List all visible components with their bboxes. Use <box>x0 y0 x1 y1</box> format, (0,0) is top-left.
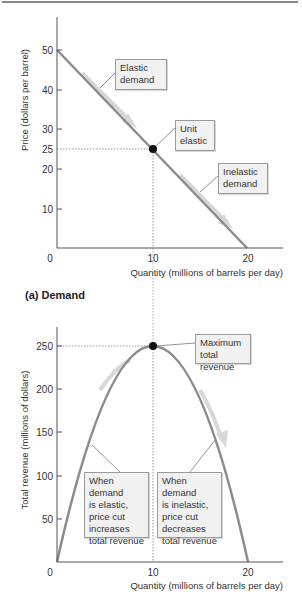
svg-text:150: 150 <box>36 427 53 438</box>
label-unit-elastic: Unit elastic <box>175 120 215 151</box>
leader-inelastic <box>200 176 218 192</box>
max-revenue-point <box>149 342 157 350</box>
svg-text:50: 50 <box>42 45 54 56</box>
arrow-falling-segment <box>200 390 222 440</box>
svg-text:30: 30 <box>42 124 54 135</box>
label-inelastic-revenue: When demand is inelastic, price cut decr… <box>157 472 222 538</box>
svg-text:25: 25 <box>42 144 54 155</box>
svg-text:0: 0 <box>47 253 53 264</box>
leader-max <box>156 343 195 346</box>
svg-text:20: 20 <box>242 253 254 264</box>
leader-elastic-revenue <box>92 445 120 472</box>
y-axis-label-revenue: Total revenue (millions of dollars) <box>19 371 30 510</box>
x-ticks-bottom: 0 10 20 <box>47 567 254 578</box>
svg-text:10: 10 <box>42 204 54 215</box>
label-inelastic-demand: Inelastic demand <box>218 163 268 194</box>
label-maximum-total-revenue: Maximum total revenue <box>195 334 251 364</box>
label-elastic-revenue: When demand is elastic, price cut increa… <box>84 472 149 538</box>
svg-text:20: 20 <box>242 567 254 578</box>
svg-text:20: 20 <box>42 164 54 175</box>
svg-text:10: 10 <box>147 567 159 578</box>
unit-elastic-point <box>149 145 157 153</box>
leader-unit <box>156 128 175 146</box>
y-ticks-price: 50 40 30 25 20 10 <box>42 45 62 215</box>
leader-inelastic-revenue <box>190 440 215 472</box>
total-revenue-chart: 250 200 150 100 50 0 10 20 Quantity (mil… <box>19 327 283 591</box>
svg-text:10: 10 <box>147 253 159 264</box>
y-ticks-revenue: 250 200 150 100 50 <box>36 341 62 525</box>
x-axis-label-bottom: Quantity (millions of barrels per day) <box>130 580 283 591</box>
svg-text:50: 50 <box>42 514 54 525</box>
x-axis-label-top: Quantity (millions of barrels per day) <box>130 267 283 278</box>
y-axis-label-price: Price (dollars per barrel) <box>19 49 30 151</box>
svg-text:100: 100 <box>36 471 53 482</box>
label-elastic-demand: Elastic demand <box>115 59 167 90</box>
panel-caption: (a) Demand <box>25 289 85 301</box>
x-ticks-top: 0 10 20 <box>47 253 254 264</box>
svg-text:0: 0 <box>47 567 53 578</box>
svg-text:40: 40 <box>42 85 54 96</box>
svg-text:200: 200 <box>36 384 53 395</box>
svg-text:250: 250 <box>36 341 53 352</box>
leader-elastic <box>100 73 115 88</box>
